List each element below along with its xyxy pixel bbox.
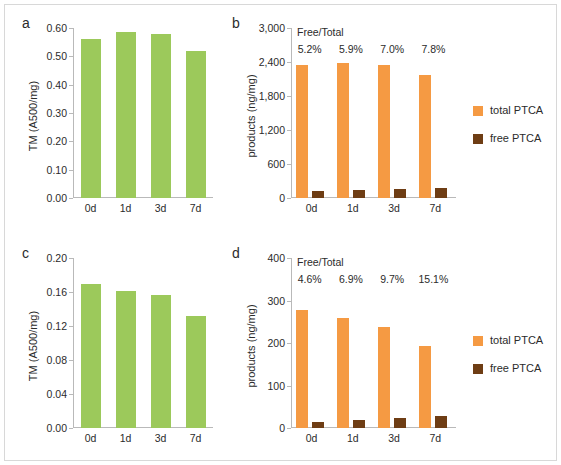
panel-c-bar <box>116 291 136 428</box>
panel-b-free-total-header: Free/Total <box>297 27 344 38</box>
panel-d-free-total-percent: 15.1% <box>418 274 448 285</box>
figure-root: a TM (A500/mg) 0.000.100.200.300.400.500… <box>0 0 561 465</box>
panel-a-y-tick-label: 0.50 <box>47 51 67 62</box>
panel-d-plot-area: Free/Total 01002003004000d4.6%1d6.9%3d9.… <box>291 258 456 428</box>
panel-a-x-tick-label: 3d <box>155 203 167 214</box>
legend-item-total-ptca[interactable]: total PTCA <box>473 335 543 346</box>
legend-label: free PTCA <box>490 133 541 144</box>
panel-a-letter: a <box>22 16 30 30</box>
panel-d-x-tick-label: 7d <box>430 433 442 444</box>
legend-label: total PTCA <box>490 335 543 346</box>
panel-a-plot-area: 0.000.100.200.300.400.500.600d1d3d7d <box>73 28 213 198</box>
panel-a-bar <box>186 51 206 198</box>
panel-d-x-tick-label: 0d <box>306 433 318 444</box>
panel-b-x-tick-label: 1d <box>347 203 359 214</box>
panel-c-y-tick-label: 0.04 <box>47 389 67 400</box>
panel-c-x-tick-label: 0d <box>85 433 97 444</box>
panel-a-bar <box>116 32 136 198</box>
panel-c-bar <box>186 316 206 428</box>
panel-a-y-tick <box>69 56 73 57</box>
panel-a-y-tick <box>69 85 73 86</box>
panel-b-y-tick-label: 3,000 <box>259 23 285 34</box>
panel-b-y-tick <box>287 62 291 63</box>
panel-b-bar <box>337 63 349 198</box>
panel-b-bar <box>419 75 431 198</box>
panel-a-y-axis-label: TM (A500/mg) <box>27 51 39 181</box>
panel-b-y-axis <box>291 28 292 198</box>
panel-a-y-tick-label: 0.20 <box>47 136 67 147</box>
panel-c-x-tick-label: 3d <box>155 433 167 444</box>
panel-c-bar <box>151 295 171 428</box>
panel-d-bar <box>419 346 431 428</box>
panel-d-y-tick <box>287 428 291 429</box>
panel-a-y-tick-label: 0.30 <box>47 108 67 119</box>
panel-a-y-tick-label: 0.10 <box>47 164 67 175</box>
panel-a-y-tick <box>69 141 73 142</box>
panel-b-y-tick-label: 1,800 <box>259 91 285 102</box>
panel-d-bar <box>435 416 447 428</box>
panel-d-y-tick <box>287 258 291 259</box>
panel-d-y-axis <box>291 258 292 428</box>
panel-c-y-tick <box>69 292 73 293</box>
panel-b-y-tick-label: 600 <box>267 159 285 170</box>
panel-c-y-axis <box>73 258 74 428</box>
panel-b-free-total-percent: 7.8% <box>421 44 445 55</box>
panel-a-y-tick <box>69 198 73 199</box>
panel-b-y-tick <box>287 164 291 165</box>
panel-d-x-tick-label: 1d <box>347 433 359 444</box>
panel-b-y-tick <box>287 28 291 29</box>
panel-b-bar <box>394 189 406 198</box>
panel-a: a TM (A500/mg) 0.000.100.200.300.400.500… <box>10 10 225 232</box>
panel-b-bar <box>378 65 390 198</box>
panel-b-y-tick <box>287 198 291 199</box>
panel-c-y-tick <box>69 326 73 327</box>
panel-a-bar <box>151 34 171 198</box>
legend-item-free-ptca[interactable]: free PTCA <box>473 363 541 374</box>
panel-a-x-tick-label: 7d <box>190 203 202 214</box>
panel-c-y-tick-label: 0.20 <box>47 253 67 264</box>
panel-a-y-tick-label: 0.40 <box>47 79 67 90</box>
panel-a-y-tick-label: 0.60 <box>47 23 67 34</box>
panel-b-y-tick <box>287 130 291 131</box>
panel-c-x-tick-label: 1d <box>120 433 132 444</box>
panel-b-y-tick-label: 0 <box>279 193 285 204</box>
panel-d-bar <box>312 422 324 428</box>
panel-c-y-tick <box>69 394 73 395</box>
panel-d-y-tick-label: 400 <box>267 253 285 264</box>
panel-b-plot-area: Free/Total 06001,2001,8002,4003,0000d5.2… <box>291 28 456 198</box>
panel-d-y-tick-label: 100 <box>267 380 285 391</box>
panel-b-bar <box>312 191 324 198</box>
panel-d-legend: total PTCAfree PTCA <box>473 335 553 385</box>
legend-label: free PTCA <box>490 363 541 374</box>
legend-item-free-ptca[interactable]: free PTCA <box>473 133 541 144</box>
panel-d-bar <box>394 418 406 428</box>
panel-d-x-tick-label: 3d <box>388 433 400 444</box>
panel-d-bar <box>296 310 308 428</box>
panel-c-y-tick <box>69 428 73 429</box>
panel-c-letter: c <box>22 246 29 260</box>
panel-c-y-tick-label: 0.08 <box>47 355 67 366</box>
panel-c-bar <box>81 284 101 428</box>
legend-item-total-ptca[interactable]: total PTCA <box>473 105 543 116</box>
panel-d-y-tick <box>287 301 291 302</box>
panel-d-y-tick-label: 300 <box>267 295 285 306</box>
panel-b-free-total-percent: 5.2% <box>298 44 322 55</box>
panel-b-free-total-percent: 5.9% <box>339 44 363 55</box>
legend-label: total PTCA <box>490 105 543 116</box>
panel-b-y-tick <box>287 96 291 97</box>
panel-b-free-total-percent: 7.0% <box>380 44 404 55</box>
panel-d-free-total-percent: 4.6% <box>298 274 322 285</box>
panel-b-y-axis-label: products (ng/mg) <box>245 51 257 181</box>
panel-c-plot-area: 0.000.040.080.120.160.200d1d3d7d <box>73 258 213 428</box>
brown-square-swatch <box>473 134 483 144</box>
panel-c-y-axis-label: TM (A500/mg) <box>27 281 39 411</box>
panel-c-y-tick <box>69 258 73 259</box>
panel-c-y-tick-label: 0.00 <box>47 423 67 434</box>
panel-d-free-total-header: Free/Total <box>297 257 344 268</box>
panel-b-x-tick-label: 0d <box>306 203 318 214</box>
panel-d-y-tick <box>287 386 291 387</box>
panel-b-bar <box>435 188 447 198</box>
panel-d-y-tick-label: 200 <box>267 338 285 349</box>
panel-c-y-tick-label: 0.16 <box>47 287 67 298</box>
panel-d-y-axis-label: products (ng/mg) <box>245 281 257 411</box>
